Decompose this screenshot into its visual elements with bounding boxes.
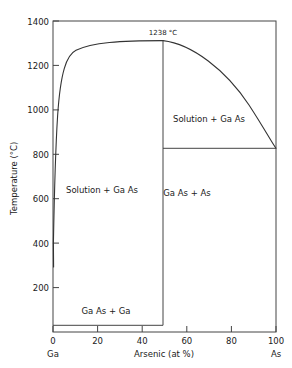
x-tick-label-20: 20 <box>92 336 103 346</box>
ga-rich-liquidus-curve <box>53 41 163 244</box>
as-rich-liquidus-curve <box>163 41 276 149</box>
y-tick-label-200: 200 <box>33 283 49 293</box>
x-tick-label-60: 60 <box>181 336 192 346</box>
x-tick-label-80: 80 <box>226 336 237 346</box>
x-tick-label-100: 100 <box>268 336 284 346</box>
y-tick-label-600: 600 <box>33 194 49 204</box>
region-label-solution-gaas-right: Solution + Ga As <box>173 114 245 124</box>
y-axis-title: Temperature (°C) <box>9 142 19 216</box>
y-tick-label-1200: 1200 <box>27 61 49 71</box>
y-tick-label-1400: 1400 <box>27 17 49 27</box>
y-tick-label-400: 400 <box>33 239 49 249</box>
phase-diagram-svg: 1400 1200 1000 800 600 400 200 Temperatu… <box>0 0 292 368</box>
x-tick-label-0: 0 <box>50 336 55 346</box>
phase-diagram-figure: 1400 1200 1000 800 600 400 200 Temperatu… <box>0 0 292 368</box>
y-tick-label-800: 800 <box>33 150 49 160</box>
x-axis-left-endpoint-label: Ga <box>47 349 59 359</box>
region-label-gaas-ga: Ga As + Ga <box>81 306 130 316</box>
region-label-gaas-as: Ga As + As <box>163 188 211 198</box>
plot-frame <box>53 21 276 332</box>
x-axis-right-endpoint-label: As <box>271 349 282 359</box>
x-axis-ticks <box>53 326 276 332</box>
region-label-solution-gaas-left: Solution + Ga As <box>66 185 138 195</box>
x-axis-title: Arsenic (at %) <box>134 349 194 359</box>
x-tick-label-40: 40 <box>137 336 148 346</box>
y-tick-label-1000: 1000 <box>27 105 49 115</box>
peak-temperature-label: 1238 °C <box>149 29 178 37</box>
